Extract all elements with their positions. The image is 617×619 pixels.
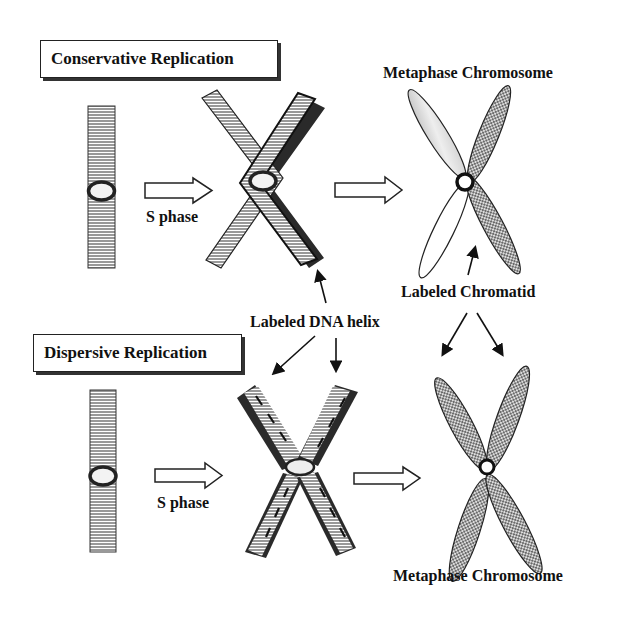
dispersive-metaphase-label: Metaphase Chromosome: [393, 567, 563, 585]
dispersive-title-box: Dispersive Replication: [33, 334, 242, 372]
conservative-title-box: Conservative Replication: [40, 40, 278, 78]
diagram-canvas: [0, 0, 617, 619]
labeled-dna-helix-label: Labeled DNA helix: [250, 313, 380, 331]
conservative-s-phase-arrow: [145, 178, 212, 203]
dispersive-replicated-chromosome: [237, 385, 358, 558]
replication-diagram: Conservative Replication Dispersive Repl…: [0, 0, 617, 619]
conservative-metaphase-label: Metaphase Chromosome: [383, 64, 553, 82]
conservative-title: Conservative Replication: [51, 49, 234, 69]
dispersive-s-phase-arrow: [155, 463, 222, 488]
conservative-metaphase-arrow: [335, 177, 402, 203]
conservative-metaphase-chromosome: [401, 82, 528, 282]
conservative-replicated-chromosome: [202, 90, 325, 268]
dispersive-metaphase-arrow: [354, 467, 420, 490]
conservative-parent-chromosome: [88, 106, 115, 268]
dispersive-metaphase-chromosome: [427, 363, 550, 585]
labeled-chromatid-label: Labeled Chromatid: [401, 283, 535, 301]
dispersive-parent-chromosome: [90, 390, 116, 552]
dispersive-title: Dispersive Replication: [44, 343, 207, 363]
conservative-s-phase-label: S phase: [146, 208, 198, 226]
dispersive-s-phase-label: S phase: [157, 494, 209, 512]
